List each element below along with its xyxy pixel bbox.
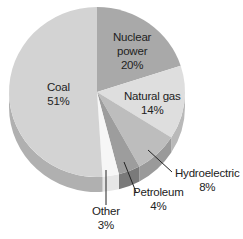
label-coal: Coal 51% — [47, 80, 70, 108]
label-hydroelectric: Hydroelectric 8% — [175, 166, 240, 194]
label-natural-gas: Natural gas 14% — [124, 89, 181, 117]
label-other: Other 3% — [92, 204, 120, 232]
label-petroleum: Petroleum 4% — [133, 185, 184, 213]
label-nuclear-power: Nuclear power 20% — [113, 30, 151, 72]
pie-side-other — [103, 174, 119, 192]
